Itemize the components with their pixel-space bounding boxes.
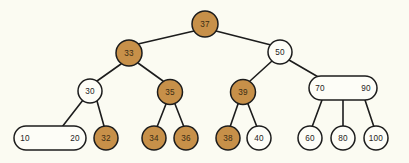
- tree-node-40[interactable]: 40: [247, 126, 271, 150]
- tree-node-36[interactable]: 36: [174, 126, 198, 150]
- tree-node-33[interactable]: 33: [116, 40, 142, 66]
- tree-node-80[interactable]: 80: [331, 126, 355, 150]
- tree-node-10-20[interactable]: 1020: [14, 126, 86, 150]
- tree-edge: [175, 104, 184, 127]
- node-label: 38: [223, 134, 233, 143]
- tree-edge: [97, 64, 121, 81]
- tree-edge: [157, 104, 166, 127]
- tree-node-34[interactable]: 34: [142, 126, 166, 150]
- node-label: 30: [85, 87, 95, 96]
- tree-edge: [289, 60, 320, 78]
- tree-node-30[interactable]: 30: [78, 79, 102, 103]
- node-label: 34: [149, 134, 159, 143]
- tree-edge: [97, 101, 104, 126]
- node-label: 37: [200, 20, 210, 29]
- node-label: 36: [181, 134, 191, 143]
- tree-node-70-90[interactable]: 7090: [309, 76, 377, 100]
- node-label: 100: [369, 134, 384, 143]
- tree-diagram: 3733503035397090102032343638406080100: [0, 0, 409, 163]
- node-label: 40: [254, 134, 264, 143]
- tree-edge: [138, 63, 163, 81]
- node-label: 50: [275, 48, 285, 57]
- node-label: 33: [124, 49, 134, 58]
- node-label: 10: [20, 134, 30, 143]
- tree-node-100[interactable]: 100: [364, 126, 388, 150]
- nodes-layer: 3733503035397090102032343638406080100: [14, 11, 388, 150]
- tree-node-38[interactable]: 38: [216, 126, 240, 150]
- node-label: 35: [165, 88, 175, 97]
- node-label: 32: [101, 134, 111, 143]
- tree-node-37[interactable]: 37: [192, 11, 218, 37]
- node-label: 90: [361, 84, 371, 93]
- tree-diagram-canvas: 3733503035397090102032343638406080100: [0, 0, 409, 163]
- tree-edge: [312, 100, 322, 127]
- tree-edge: [250, 61, 272, 81]
- tree-node-32[interactable]: 32: [94, 126, 118, 150]
- tree-edge: [216, 31, 271, 45]
- tree-edge: [138, 31, 194, 44]
- tree-edge: [365, 100, 374, 127]
- node-label: 20: [70, 134, 80, 143]
- tree-node-39[interactable]: 39: [231, 80, 256, 105]
- node-label: 70: [315, 84, 325, 93]
- tree-node-60[interactable]: 60: [298, 126, 322, 150]
- node-label: 60: [305, 134, 315, 143]
- tree-node-50[interactable]: 50: [268, 40, 292, 64]
- tree-node-35[interactable]: 35: [158, 80, 183, 105]
- node-label: 39: [238, 88, 248, 97]
- tree-edge: [230, 104, 238, 127]
- tree-edge: [62, 100, 83, 127]
- node-label: 80: [338, 134, 348, 143]
- tree-edge: [248, 104, 257, 127]
